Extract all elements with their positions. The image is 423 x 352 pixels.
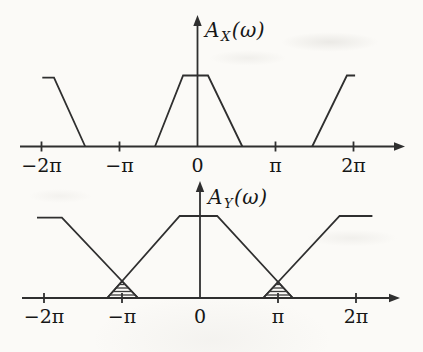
- x-tick-label: π: [269, 156, 282, 175]
- y-axis-title-ay: AY(ω): [208, 186, 267, 211]
- x-axis-arrow-icon: [389, 294, 400, 302]
- axis-title-letter: A: [205, 18, 220, 42]
- x-axis-arrow-icon: [394, 142, 405, 150]
- plot-ax-spectrum: AX(ω) −2π−π0π2π: [0, 0, 423, 176]
- axis-title-subscript: X: [221, 29, 231, 44]
- series-replica-right: [312, 76, 355, 147]
- plot-ay-spectrum: AY(ω) −2π−π0π2π: [0, 176, 423, 352]
- x-tick-label: 0: [194, 307, 206, 326]
- axis-title-subscript: Y: [224, 196, 233, 211]
- x-tick-label: −π: [105, 156, 133, 175]
- scanned-spectrum-figure: AX(ω) −2π−π0π2π AY(ω) −2π−π0π2π: [0, 0, 423, 352]
- series-replica-left: [37, 218, 138, 298]
- x-tick-label: 2π: [344, 307, 369, 326]
- y-axis-arrow-icon: [193, 15, 201, 26]
- x-tick-label: −π: [108, 307, 136, 326]
- axis-title-argument: (ω): [232, 18, 265, 42]
- y-axis-title-ax: AX(ω): [205, 19, 265, 44]
- x-tick-label: π: [272, 307, 285, 326]
- axis-title-argument: (ω): [234, 185, 267, 209]
- x-tick-label: −2π: [24, 307, 65, 326]
- x-tick-label: −2π: [21, 156, 62, 175]
- series-replica-left: [42, 78, 85, 147]
- x-tick-label: 2π: [341, 156, 366, 175]
- series-main-lobe: [155, 76, 242, 147]
- y-axis-arrow-icon: [196, 181, 204, 192]
- axis-title-letter: A: [208, 185, 223, 209]
- x-tick-label: 0: [191, 156, 203, 175]
- series-replica-right: [263, 216, 372, 298]
